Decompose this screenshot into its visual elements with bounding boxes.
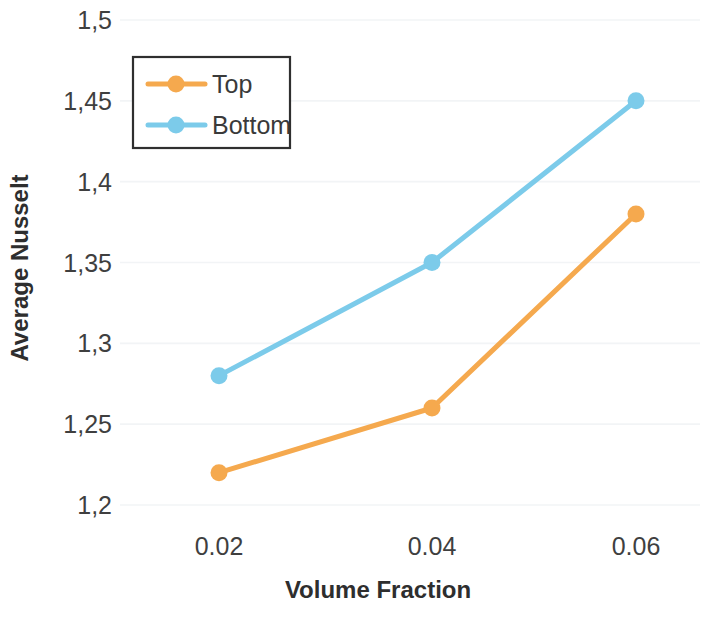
line-chart: 1,51,451,41,351,31,251,2 0.020.040.06 To…	[0, 0, 710, 617]
y-axis-title: Average Nusselt	[6, 174, 33, 361]
x-axis-tick-labels: 0.020.040.06	[195, 532, 661, 560]
data-point-marker	[424, 254, 441, 271]
data-point-marker	[211, 367, 228, 384]
data-point-marker	[628, 206, 645, 223]
data-point-marker	[628, 92, 645, 109]
y-tick-label: 1,5	[77, 6, 112, 34]
legend-swatch-marker	[168, 117, 185, 134]
x-tick-label: 0.04	[408, 532, 457, 560]
legend-label: Top	[212, 70, 252, 98]
chart-container: 1,51,451,41,351,31,251,2 0.020.040.06 To…	[0, 0, 710, 617]
x-tick-label: 0.06	[612, 532, 661, 560]
y-tick-label: 1,45	[63, 87, 112, 115]
data-point-marker	[424, 400, 441, 417]
y-tick-label: 1,25	[63, 410, 112, 438]
legend-swatch-marker	[168, 76, 185, 93]
legend-label: Bottom	[212, 111, 291, 139]
data-point-marker	[211, 464, 228, 481]
y-tick-label: 1,2	[77, 491, 112, 519]
y-tick-label: 1,3	[77, 329, 112, 357]
x-axis-title: Volume Fraction	[285, 576, 471, 603]
y-tick-label: 1,35	[63, 249, 112, 277]
x-tick-label: 0.02	[195, 532, 244, 560]
series-lines	[211, 92, 645, 481]
y-axis-tick-labels: 1,51,451,41,351,31,251,2	[63, 6, 112, 519]
y-tick-label: 1,4	[77, 168, 112, 196]
legend: TopBottom	[133, 57, 291, 148]
